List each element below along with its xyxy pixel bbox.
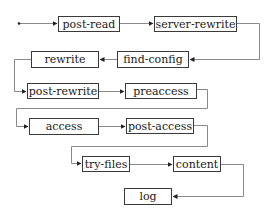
connector-lines (0, 0, 266, 217)
node-try-files: try-files (82, 156, 130, 172)
node-post-read: post-read (58, 16, 120, 32)
node-find-config: find-config (117, 51, 189, 68)
node-post-access: post-access (126, 118, 194, 134)
node-content: content (173, 156, 221, 172)
node-access: access (29, 118, 99, 135)
nginx-phase-flow-diagram: post-read server-rewrite find-config rew… (0, 0, 266, 217)
node-server-rewrite: server-rewrite (154, 16, 237, 32)
node-rewrite: rewrite (31, 51, 99, 68)
node-post-rewrite: post-rewrite (27, 83, 99, 99)
start-dot (18, 22, 21, 25)
node-log: log (124, 188, 172, 205)
node-preaccess: preaccess (125, 83, 197, 99)
